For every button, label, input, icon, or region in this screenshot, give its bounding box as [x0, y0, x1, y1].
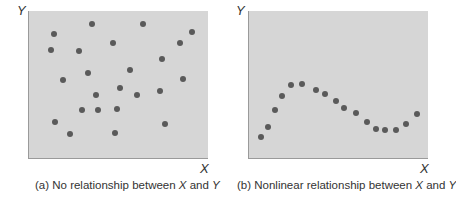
data-point: [127, 67, 133, 73]
caption-b-y: Y: [449, 179, 456, 191]
data-point: [112, 130, 118, 136]
caption-b-prefix: (b) Nonlinear relationship between: [237, 179, 415, 191]
data-point: [60, 77, 66, 83]
data-point: [258, 134, 264, 140]
data-point: [177, 40, 183, 46]
caption-b-x: X: [415, 179, 423, 191]
data-point: [134, 92, 140, 98]
data-point: [403, 121, 409, 127]
data-point: [393, 127, 399, 133]
data-point: [414, 111, 420, 117]
data-point: [313, 87, 319, 93]
data-point: [333, 98, 339, 104]
caption-a-y: Y: [212, 179, 220, 191]
y-axis-label-a: Y: [17, 4, 26, 17]
x-axis-label-b: X: [420, 162, 429, 175]
data-point: [117, 85, 123, 91]
data-point: [85, 70, 91, 76]
data-point: [189, 29, 195, 35]
caption-a-mid: and: [187, 179, 213, 191]
data-point: [89, 21, 95, 27]
data-point: [322, 91, 328, 97]
data-point: [159, 56, 165, 62]
data-point: [265, 124, 271, 130]
data-point: [51, 31, 57, 37]
caption-a-prefix: (a) No relationship between: [35, 179, 179, 191]
data-point: [79, 107, 85, 113]
data-point: [95, 107, 101, 113]
caption-a: (a) No relationship between X and Y: [35, 179, 220, 191]
scatter-plot-b: [248, 11, 428, 159]
scatter-plot-a: [28, 11, 208, 159]
data-point: [110, 40, 116, 46]
data-point: [76, 48, 82, 54]
x-axis-label-a: X: [200, 162, 209, 175]
data-point: [288, 82, 294, 88]
data-point: [48, 47, 54, 53]
data-point: [272, 107, 278, 113]
data-point: [341, 105, 347, 111]
data-point: [353, 110, 359, 116]
data-point: [52, 119, 58, 125]
data-point: [162, 121, 168, 127]
data-point: [382, 127, 388, 133]
data-point: [67, 131, 73, 137]
data-point: [364, 119, 370, 125]
data-point: [373, 126, 379, 132]
data-point: [157, 88, 163, 94]
caption-a-x: X: [179, 179, 187, 191]
caption-b: (b) Nonlinear relationship between X and…: [237, 179, 456, 191]
data-point: [180, 76, 186, 82]
data-point: [279, 93, 285, 99]
data-point: [93, 92, 99, 98]
data-point: [140, 21, 146, 27]
y-axis-label-b: Y: [236, 4, 245, 17]
data-point: [299, 81, 305, 87]
data-point: [114, 106, 120, 112]
caption-b-mid: and: [423, 179, 449, 191]
